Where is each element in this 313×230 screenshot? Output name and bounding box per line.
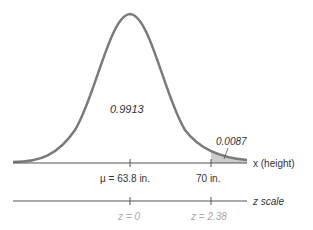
normal-curve [13, 14, 247, 162]
area-label-main: 0.9913 [110, 103, 145, 115]
cutoff-label: 70 in. [196, 173, 220, 184]
z-tick-label-2-38: z = 2.38 [190, 211, 227, 222]
x-axis-label: x (height) [253, 158, 295, 169]
normal-distribution-chart: 0.9913 0.0087 x (height) μ = 63.8 in. 70… [0, 0, 313, 230]
z-axis-label: z scale [252, 196, 285, 207]
area-label-tail: 0.0087 [216, 136, 247, 147]
z-tick-label-0: z = 0 [117, 211, 140, 222]
mean-label: μ = 63.8 in. [100, 173, 150, 184]
